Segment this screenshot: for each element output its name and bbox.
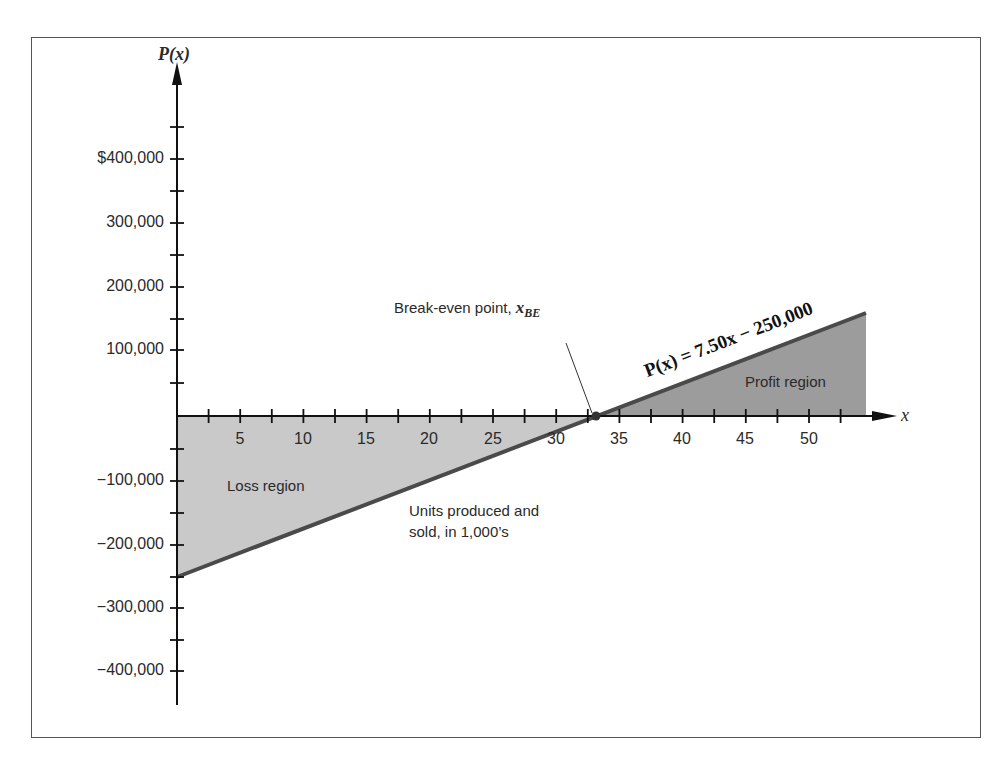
x-tick-label: 40 <box>667 430 697 448</box>
units-annotation-line1: Units produced and <box>409 500 539 521</box>
y-tick-label: −300,000 <box>44 598 164 616</box>
x-tick-label: 25 <box>478 430 508 448</box>
loss-region-label: Loss region <box>227 477 305 494</box>
units-annotation: Units produced and sold, in 1,000’s <box>409 500 539 542</box>
x-tick-label: 5 <box>225 430 255 448</box>
x-tick-label: 15 <box>351 430 381 448</box>
break-even-point-marker <box>592 412 601 421</box>
x-tick-label: 20 <box>414 430 444 448</box>
break-even-annotation: Break-even point, xBE <box>394 298 540 321</box>
x-axis-arrow-icon <box>872 411 897 421</box>
x-tick-label: 50 <box>794 430 824 448</box>
units-annotation-line2: sold, in 1,000’s <box>409 521 539 542</box>
x-axis-ticks <box>209 409 841 423</box>
y-axis-arrow-icon <box>172 62 182 85</box>
chart-canvas <box>0 0 1008 757</box>
y-tick-label: 100,000 <box>44 340 164 358</box>
x-tick-label: 45 <box>730 430 760 448</box>
x-tick-label: 30 <box>541 430 571 448</box>
y-tick-label: 300,000 <box>44 213 164 231</box>
y-tick-label: $400,000 <box>44 149 164 167</box>
y-tick-label: −100,000 <box>44 471 164 489</box>
x-tick-label: 10 <box>288 430 318 448</box>
x-tick-label: 35 <box>604 430 634 448</box>
y-tick-label: −400,000 <box>44 661 164 679</box>
y-tick-label: 200,000 <box>44 277 164 295</box>
x-axis-label: x <box>901 405 909 426</box>
profit-region-label: Profit region <box>745 373 826 390</box>
break-even-leader-line <box>566 343 592 413</box>
y-tick-label: −200,000 <box>44 535 164 553</box>
y-axis-label: P(x) <box>158 44 190 65</box>
